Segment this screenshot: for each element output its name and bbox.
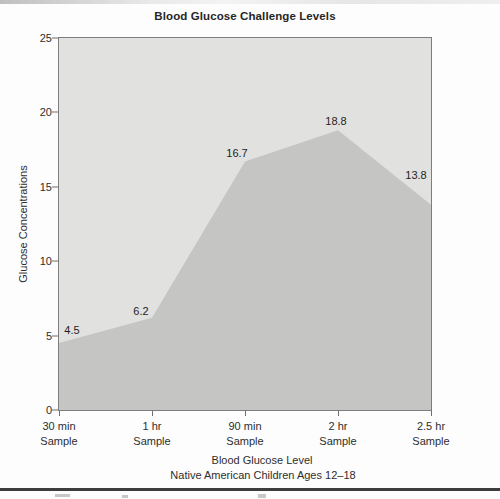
y-tick-label: 20 — [14, 106, 52, 118]
y-tick-label: 25 — [14, 32, 52, 44]
cropped-text-fragment — [55, 494, 70, 497]
data-point-label: 16.7 — [226, 147, 247, 159]
x-tick-label: 2 hrSample — [319, 419, 356, 448]
page-bottom-rule — [0, 488, 500, 491]
y-tick-mark — [52, 261, 58, 262]
x-tick-mark — [59, 411, 60, 416]
x-tick-mark — [152, 411, 153, 416]
x-tick-mark — [431, 411, 432, 416]
y-tick-label: 0 — [14, 404, 52, 416]
x-tick-label: 30 minSample — [40, 419, 77, 448]
x-tick-label: 1 hrSample — [133, 419, 170, 448]
x-tick-mark — [338, 411, 339, 416]
x-axis-subtitle: Native American Children Ages 12–18 — [170, 469, 355, 481]
cropped-text-fragment — [258, 494, 266, 498]
plot-area — [58, 37, 432, 411]
x-axis-label: Blood Glucose Level — [212, 454, 313, 466]
cropped-text-fragment — [122, 495, 128, 498]
data-point-label: 6.2 — [133, 305, 148, 317]
glucose-area-polygon — [59, 130, 431, 410]
y-tick-mark — [52, 38, 58, 39]
data-point-label: 18.8 — [325, 115, 346, 127]
y-tick-mark — [52, 410, 58, 411]
glucose-area-series — [59, 38, 431, 410]
chart-title: Blood Glucose Challenge Levels — [58, 10, 432, 22]
y-tick-label: 15 — [14, 181, 52, 193]
y-tick-mark — [52, 335, 58, 336]
y-tick-label: 10 — [14, 255, 52, 267]
y-tick-mark — [52, 186, 58, 187]
x-tick-label: 90 minSample — [226, 419, 263, 448]
cropped-content-top-edge — [0, 0, 500, 4]
y-tick-mark — [52, 112, 58, 113]
data-point-label: 4.5 — [64, 324, 79, 336]
y-tick-label: 5 — [14, 330, 52, 342]
x-tick-mark — [245, 411, 246, 416]
x-tick-label: 2.5 hrSample — [412, 419, 449, 448]
y-axis-label: Glucose Concentrations — [15, 37, 31, 411]
data-point-label: 13.8 — [405, 169, 426, 181]
